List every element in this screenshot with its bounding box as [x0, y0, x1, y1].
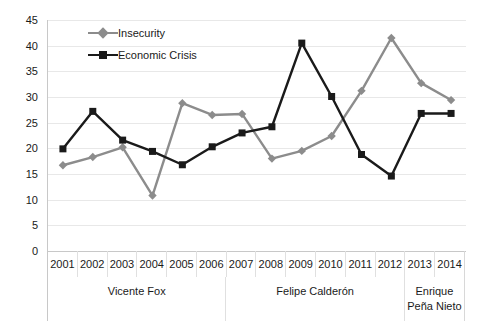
legend-item-economic-crisis: Economic Crisis	[88, 44, 268, 66]
x-tick-label-2011: 2011	[346, 251, 376, 277]
x-tick-label-2004: 2004	[137, 251, 167, 277]
y-tick-label: 35	[26, 66, 38, 77]
data-point-marker	[178, 99, 186, 107]
data-point-marker	[179, 161, 186, 168]
data-point-marker	[268, 123, 275, 130]
x-tick-label-2009: 2009	[286, 251, 316, 277]
data-point-marker	[328, 93, 335, 100]
period-band-label: EnriquePeña Nieto	[405, 277, 464, 321]
legend-item-insecurity: Insecurity	[88, 22, 268, 44]
data-point-marker	[59, 161, 67, 169]
chart-legend: InsecurityEconomic Crisis	[88, 22, 268, 66]
x-tick-label-2012: 2012	[376, 251, 406, 277]
y-tick-label: 10	[26, 194, 38, 205]
y-tick-label: 0	[32, 246, 38, 257]
x-tick-label-2014: 2014	[435, 251, 464, 277]
period-band-label: Felipe Calderón	[226, 277, 404, 321]
legend-label: Economic Crisis	[118, 50, 197, 61]
data-point-marker	[89, 153, 97, 161]
legend-swatch-icon	[88, 48, 118, 62]
y-tick-label: 5	[32, 220, 38, 231]
y-tick-label: 40	[26, 40, 38, 51]
data-point-marker	[298, 147, 306, 155]
x-tick-label-2002: 2002	[78, 251, 108, 277]
y-tick-label: 20	[26, 143, 38, 154]
x-tick-label-2005: 2005	[167, 251, 197, 277]
data-point-marker	[208, 111, 216, 119]
data-point-marker	[119, 137, 126, 144]
x-axis-presidential-periods: Vicente FoxFelipe CalderónEnriquePeña Ni…	[47, 277, 465, 321]
x-tick-label-2006: 2006	[197, 251, 227, 277]
legend-label: Insecurity	[118, 28, 165, 39]
data-point-marker	[418, 110, 425, 117]
y-tick-label: 45	[26, 15, 38, 26]
y-axis: 454035302520151050	[0, 0, 44, 260]
data-point-marker	[448, 110, 455, 117]
x-tick-label-2007: 2007	[227, 251, 257, 277]
y-tick-label: 30	[26, 92, 38, 103]
y-tick-label: 15	[26, 169, 38, 180]
x-tick-label-2008: 2008	[256, 251, 286, 277]
period-band-label: Vicente Fox	[48, 277, 226, 321]
x-tick-label-2013: 2013	[405, 251, 435, 277]
x-tick-label-2003: 2003	[108, 251, 138, 277]
data-point-marker	[59, 145, 66, 152]
y-tick-label: 25	[26, 117, 38, 128]
legend-swatch-icon	[88, 26, 118, 40]
x-tick-label-2001: 2001	[48, 251, 78, 277]
line-chart: 454035302520151050 InsecurityEconomic Cr…	[0, 0, 499, 321]
data-point-marker	[388, 173, 395, 180]
data-point-marker	[149, 148, 156, 155]
legend-marker-icon	[97, 27, 108, 38]
x-axis-years: 2001200220032004200520062007200820092010…	[47, 251, 465, 277]
data-point-marker	[298, 40, 305, 47]
data-point-marker	[239, 129, 246, 136]
data-point-marker	[209, 143, 216, 150]
legend-marker-icon	[99, 51, 107, 59]
data-point-marker	[89, 108, 96, 115]
data-point-marker	[358, 151, 365, 158]
x-tick-label-2010: 2010	[316, 251, 346, 277]
